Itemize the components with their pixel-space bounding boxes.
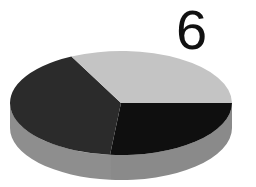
pie-chart-3d — [0, 0, 256, 187]
chart-number-label: 6 — [176, 2, 207, 58]
